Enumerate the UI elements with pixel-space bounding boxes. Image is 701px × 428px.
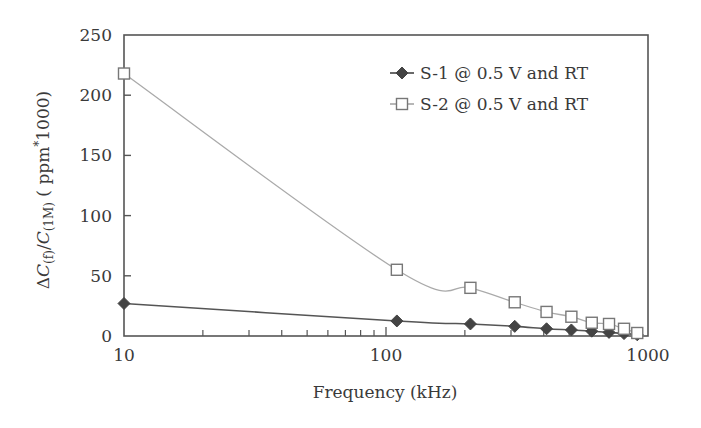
y-title-units: ( ppm — [33, 147, 53, 202]
legend: S-1 @ 0.5 V and RT S-2 @ 0.5 V and RT — [390, 63, 589, 114]
data-point-square — [586, 317, 597, 328]
y-title-sub2: (1M) — [42, 202, 56, 231]
data-point-square — [465, 282, 476, 293]
legend-label-s1: S-1 @ 0.5 V and RT — [420, 63, 589, 83]
svg-text:ΔC(f)/C(1M) ( ppm*1000): ΔC(f)/C(1M) ( ppm*1000) — [32, 91, 56, 289]
x-tick-label: 10 — [113, 345, 135, 365]
data-point-square — [604, 318, 615, 329]
y-axis-title: ΔC(f)/C(1M) ( ppm*1000) — [32, 91, 56, 289]
data-point-diamond — [541, 323, 553, 335]
legend-item-s1: S-1 @ 0.5 V and RT — [390, 63, 589, 83]
data-point-square — [391, 264, 402, 275]
chart: 050100150200250 101001000 Frequency (kHz… — [0, 0, 701, 428]
data-point-square — [509, 297, 520, 308]
data-point-diamond — [464, 318, 476, 330]
data-point-square — [566, 311, 577, 322]
y-tick-label: 0 — [101, 326, 112, 346]
y-tick-label: 150 — [80, 145, 112, 165]
data-point-diamond — [565, 324, 577, 336]
square-marker-icon — [397, 99, 408, 110]
data-point-square — [619, 323, 630, 334]
y-tick-label: 50 — [90, 266, 112, 286]
y-title-tail: 1000) — [33, 91, 53, 141]
data-point-square — [119, 68, 130, 79]
x-axis-ticks: 101001000 — [113, 327, 669, 365]
x-tick-label: 1000 — [626, 345, 669, 365]
y-title-c2: C — [33, 231, 53, 244]
x-tick-label: 100 — [370, 345, 402, 365]
y-title-sub1: (f) — [42, 250, 56, 264]
y-tick-label: 200 — [80, 85, 112, 105]
data-point-square — [541, 306, 552, 317]
legend-item-s2: S-2 @ 0.5 V and RT — [390, 94, 589, 114]
y-title-c1: C — [33, 264, 53, 277]
x-axis-title: Frequency (kHz) — [313, 382, 458, 402]
data-point-diamond — [391, 315, 403, 327]
diamond-marker-icon — [396, 67, 408, 79]
legend-label-s2: S-2 @ 0.5 V and RT — [420, 94, 589, 114]
y-tick-label: 250 — [80, 25, 112, 45]
y-title-delta: Δ — [33, 277, 53, 289]
series-1 — [118, 297, 643, 340]
data-point-diamond — [118, 297, 130, 309]
chart-canvas: 050100150200250 101001000 Frequency (kHz… — [0, 0, 701, 428]
data-point-square — [632, 327, 643, 338]
y-tick-label: 100 — [80, 206, 112, 226]
